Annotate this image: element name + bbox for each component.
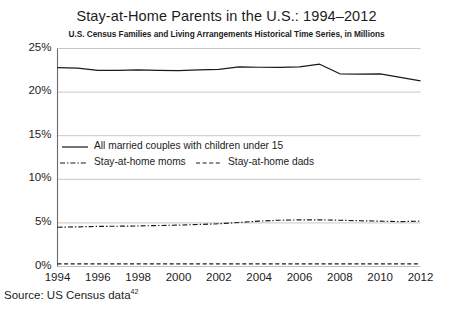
x-tick-label: 1996 [78,271,118,283]
source-text: Source: US Census data [4,289,131,301]
y-tick-label: 5% [18,215,52,227]
x-tick-label: 2002 [199,271,239,283]
series-line-1 [58,220,421,227]
x-tick-label: 2008 [320,271,360,283]
chart-canvas [0,0,453,310]
chart-figure: Stay-at-Home Parents in the U.S.: 1994–2… [0,0,453,310]
y-tick-label: 25% [18,41,52,53]
x-tick-label: 2000 [159,271,199,283]
x-tick-label: 2006 [280,271,320,283]
y-tick-label: 0% [18,259,52,271]
x-tick-label: 1998 [118,271,158,283]
plot-area: 0%5%10%15%20%25% 19941996199820002002200… [0,0,453,310]
y-tick-label: 15% [18,128,52,140]
y-tick-label: 10% [18,171,52,183]
x-tick-label: 2010 [360,271,400,283]
source-footnote: 42 [131,288,139,295]
series-line-0 [58,64,421,81]
x-tick-label: 2012 [401,271,441,283]
y-tick-label: 20% [18,84,52,96]
legend-label-2: Stay-at-home dads [228,156,314,167]
x-tick-label: 2004 [239,271,279,283]
legend-label-0: All married couples with children under … [94,140,283,151]
source-note: Source: US Census data42 [4,288,138,301]
legend-label-1: Stay-at-home moms [94,156,186,167]
x-tick-label: 1994 [38,271,78,283]
